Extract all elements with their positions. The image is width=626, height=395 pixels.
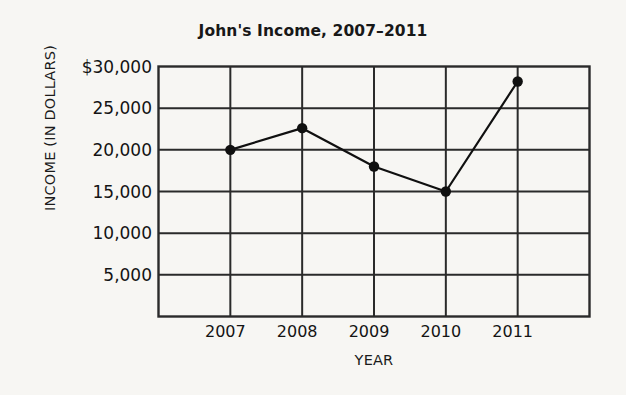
data-point-marker	[297, 123, 307, 133]
data-point-marker	[369, 161, 379, 171]
line-chart: John's Income, 2007–2011 INCOME (IN DOLL…	[0, 0, 626, 395]
data-point-marker	[441, 186, 451, 196]
plot-area	[0, 0, 626, 395]
data-point-marker	[512, 76, 522, 86]
grid-lines	[159, 67, 590, 317]
data-point-marker	[225, 145, 235, 155]
